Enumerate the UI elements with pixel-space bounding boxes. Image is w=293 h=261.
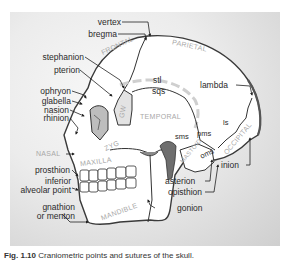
label-or-menton: or menton xyxy=(20,212,75,221)
label-alveolar-point: alveolar point xyxy=(10,186,71,195)
label-rhinion: rhinion xyxy=(30,114,69,123)
suture-label-sms: sms xyxy=(175,133,189,141)
label-stephanion: stephanion xyxy=(36,53,84,62)
skull-illustration xyxy=(0,0,293,261)
suture-label-stl: stl xyxy=(153,76,162,85)
label-vertex: vertex xyxy=(86,18,121,27)
figure-caption: Fig. 1.10 Craniometric points and suture… xyxy=(4,252,194,260)
label-pterion: pterion xyxy=(44,66,80,75)
figure-caption-text: Craniometric points and sutures of the s… xyxy=(38,251,194,260)
label-lambda: lambda xyxy=(200,81,228,90)
bone-label-temporal: TEMPORAL xyxy=(140,113,181,120)
label-gonion: gonion xyxy=(177,204,203,213)
suture-label-sqs: sqs xyxy=(152,87,165,96)
label-bregma: bregma xyxy=(80,30,117,39)
suture-label-ls: ls xyxy=(223,119,228,127)
figure-number: Fig. 1.10 xyxy=(4,251,36,260)
label-opisthion: opisthion xyxy=(168,188,202,197)
suture-label-pms: pms xyxy=(197,130,211,138)
label-asterion: asterion xyxy=(165,177,195,186)
label-prosthion: prosthion xyxy=(20,166,70,175)
bone-label-nasal: NASAL xyxy=(36,150,60,157)
label-ophryon: ophryon xyxy=(30,87,71,96)
label-inion: inion xyxy=(221,161,239,170)
